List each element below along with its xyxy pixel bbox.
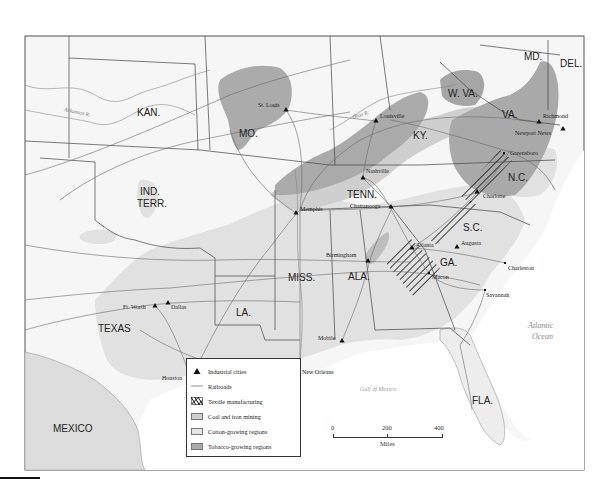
legend-item-industrial-cities: Industrial cities bbox=[191, 366, 246, 376]
legend-label: Industrial cities bbox=[208, 368, 246, 375]
gulf-label: Gulf of Mexico bbox=[360, 386, 396, 392]
state-label-tenn: TENN. bbox=[347, 189, 377, 200]
scale-unit: Miles bbox=[380, 440, 395, 447]
city-label: Birmingham bbox=[326, 252, 357, 258]
state-label-va: VA. bbox=[502, 109, 517, 120]
state-label-nc: N.C. bbox=[508, 172, 528, 183]
dot-icon bbox=[484, 289, 486, 291]
state-label-md: MD. bbox=[524, 51, 542, 62]
city-label: Savannah bbox=[486, 292, 509, 298]
legend-label: Cotton-growing regions bbox=[208, 428, 267, 435]
railroad-line-icon bbox=[191, 382, 203, 390]
legend-item-coal-iron: Coal and iron mining bbox=[191, 411, 261, 421]
legend-item-railroads: Railroads bbox=[191, 381, 232, 391]
coal-swatch-icon bbox=[191, 413, 203, 420]
hatch-swatch-icon bbox=[191, 397, 203, 405]
state-label-texas: TEXAS bbox=[98, 323, 131, 334]
dot-icon bbox=[428, 272, 430, 274]
ocean-label-atlantic: Atlantic bbox=[527, 321, 554, 330]
state-label-la: LA. bbox=[236, 307, 251, 318]
legend-item-cotton: Cotton-growing regions bbox=[191, 426, 267, 436]
state-label-miss: MISS. bbox=[288, 272, 315, 283]
scale-tick-200: 200 bbox=[382, 424, 392, 431]
legend-label: Textile manufacturing bbox=[208, 398, 263, 405]
city-label: New Orleans bbox=[302, 369, 334, 375]
city-label: Chattanooga bbox=[350, 203, 381, 209]
city-label: Richmond bbox=[543, 113, 568, 119]
city-label: Nashville bbox=[366, 168, 389, 174]
state-label-del: DEL. bbox=[560, 58, 582, 69]
state-label-ga: GA. bbox=[440, 257, 457, 268]
country-label-mexico: MEXICO bbox=[53, 423, 93, 434]
city-label: Louisville bbox=[380, 113, 405, 119]
state-label-ala: ALA. bbox=[348, 271, 370, 282]
footer-rule bbox=[0, 477, 40, 479]
map-legend: Industrial cities Railroads Textile manu… bbox=[186, 358, 301, 457]
city-label: Charleston bbox=[508, 265, 534, 271]
tobacco-swatch-icon bbox=[191, 443, 203, 450]
city-label: Memphis bbox=[300, 206, 323, 212]
legend-item-tobacco: Tobacco-growing regions bbox=[191, 441, 271, 451]
city-label: Charlotte bbox=[483, 193, 506, 199]
state-label-ind-terr-1: IND. bbox=[140, 186, 160, 197]
legend-label: Coal and iron mining bbox=[208, 413, 261, 420]
city-label: Mobile bbox=[318, 335, 336, 341]
city-label: Newport News bbox=[515, 130, 552, 136]
legend-label: Tobacco-growing regions bbox=[208, 443, 271, 450]
city-label: Dallas bbox=[171, 304, 187, 310]
state-label-wva: W. VA. bbox=[448, 88, 478, 99]
city-label: Houston bbox=[162, 375, 182, 381]
state-label-kan: KAN. bbox=[137, 107, 160, 118]
ocean-label-ocean: Ocean bbox=[532, 332, 553, 341]
map: KAN. MO. KY. W. VA. VA. MD. DEL. N.C. TE… bbox=[0, 0, 609, 488]
city-macon: Macon bbox=[428, 272, 449, 280]
scale-bar: 0 200 400 Miles bbox=[330, 424, 442, 454]
city-label: Ft. Worth bbox=[123, 304, 146, 310]
scale-tick-400: 400 bbox=[434, 424, 444, 431]
cotton-swatch-icon bbox=[191, 428, 203, 435]
city-label: Augusta bbox=[461, 240, 481, 246]
city-label: Macon bbox=[432, 274, 449, 280]
state-label-ind-terr-2: TERR. bbox=[137, 198, 167, 209]
triangle-icon bbox=[191, 367, 203, 375]
scale-line bbox=[333, 434, 443, 438]
state-label-mo: MO. bbox=[239, 128, 258, 139]
scale-mid-tick bbox=[387, 434, 388, 437]
state-label-ky: KY. bbox=[413, 130, 428, 141]
city-label: Atlanta bbox=[416, 242, 434, 248]
scale-tick-0: 0 bbox=[331, 424, 334, 431]
city-label: St. Louis bbox=[258, 102, 280, 108]
legend-item-textile: Textile manufacturing bbox=[191, 396, 263, 406]
state-label-fla: FLA. bbox=[472, 395, 493, 406]
state-label-sc: S.C. bbox=[463, 222, 482, 233]
city-label: Greensboro bbox=[510, 150, 538, 156]
dot-icon bbox=[503, 152, 505, 154]
dot-icon bbox=[504, 262, 506, 264]
legend-label: Railroads bbox=[208, 383, 232, 390]
